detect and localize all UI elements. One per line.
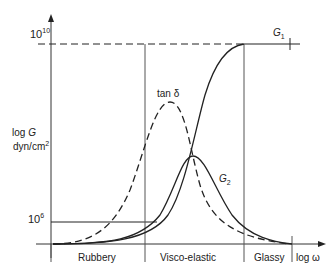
y-axis-label-var: G xyxy=(28,127,36,138)
g2-label: G2 xyxy=(219,174,231,186)
y-tick-1e10: 1010 xyxy=(30,27,50,40)
g1-sub: 1 xyxy=(281,33,285,40)
y-axis-units-exp: 2 xyxy=(45,140,49,147)
y-tick-1e6-base: 10 xyxy=(28,213,40,225)
g1-label: G1 xyxy=(273,28,285,40)
curve-tan-delta xyxy=(53,102,290,244)
region-rubbery: Rubbery xyxy=(78,253,116,263)
y-tick-1e6-exp: 6 xyxy=(40,212,44,219)
g2-sub: 2 xyxy=(227,179,231,186)
g1-var: G xyxy=(273,27,281,38)
y-tick-1e10-exp: 10 xyxy=(42,27,50,34)
y-axis-units: dyn/cm2 xyxy=(13,140,49,152)
tan-delta-label: tan δ xyxy=(157,89,179,99)
x-axis-label: log ω xyxy=(296,253,320,263)
curve-g2 xyxy=(53,156,292,244)
y-axis-label-log: log xyxy=(12,127,28,138)
y-tick-1e10-base: 10 xyxy=(30,28,42,40)
g2-var: G xyxy=(219,173,227,184)
y-axis-label: log G xyxy=(12,128,36,138)
y-tick-1e6: 106 xyxy=(28,212,44,225)
region-glassy: Glassy xyxy=(254,253,285,263)
viscoelastic-diagram xyxy=(0,0,334,275)
y-axis-units-text: dyn/cm xyxy=(13,141,45,152)
region-visco-elastic: Visco-elastic xyxy=(160,253,216,263)
